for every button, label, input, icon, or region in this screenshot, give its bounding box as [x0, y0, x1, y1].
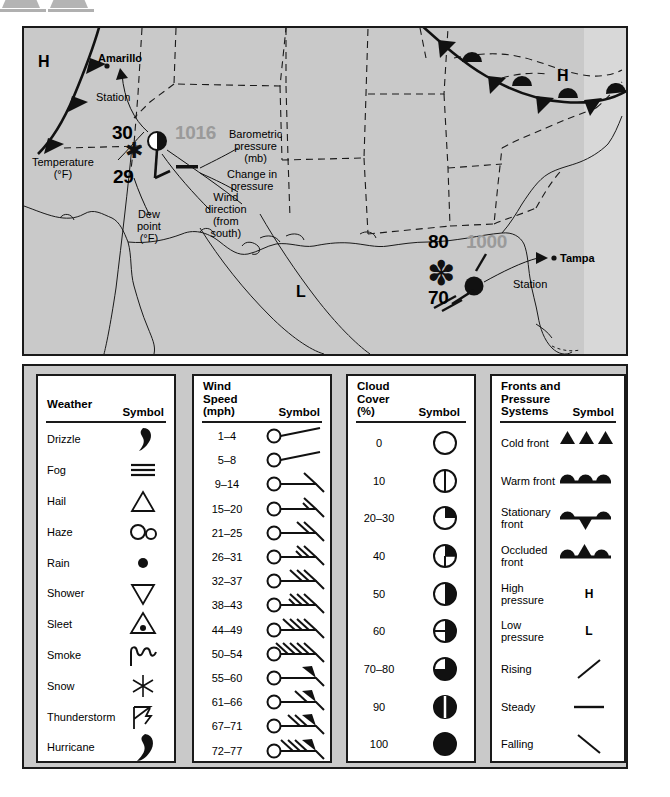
- legend-row-label: Fog: [38, 464, 66, 476]
- legend-row: Low pressureL: [492, 612, 624, 650]
- legend-row: Drizzle: [38, 424, 174, 455]
- wind-direction-label: Wind direction (from south): [205, 191, 247, 239]
- legend-row-label: Falling: [492, 738, 533, 750]
- occluded-front-icon: [554, 537, 624, 575]
- pressure-glyph: H: [585, 587, 594, 601]
- legend-row-label: 72–77: [194, 745, 258, 757]
- legend-row-label: Stationary front: [492, 506, 551, 530]
- haze-icon: [112, 516, 174, 547]
- legend-row: Haze: [38, 516, 174, 547]
- panel-title: Cloud Cover (%): [357, 380, 390, 418]
- high-pressure-icon: H: [554, 575, 624, 613]
- station-temperature-tampa: 80: [428, 236, 449, 248]
- warm-front-icon: [554, 462, 624, 500]
- legend-row-symbol: [268, 472, 330, 496]
- station-dewpoint-amarillo: 29: [113, 171, 134, 183]
- legend-row-symbol: [268, 642, 330, 666]
- station-pressure-tampa: 1000: [466, 236, 507, 248]
- legend-row-label: Sleet: [38, 618, 72, 630]
- legend-row: 90: [348, 688, 474, 726]
- high-pressure-label-east: H: [557, 70, 569, 82]
- legend-row-label: 1–4: [194, 430, 258, 442]
- low-pressure-label: L: [296, 286, 306, 298]
- legend-row: Rain: [38, 547, 174, 578]
- legend-row-symbol: [416, 537, 474, 575]
- legend-row: 38–43: [194, 593, 330, 617]
- legend-row-label: 50: [348, 588, 408, 600]
- panel-symbol-header: Symbol: [122, 406, 164, 418]
- sleet-icon: [112, 609, 174, 640]
- legend-row: Warm front: [492, 462, 624, 500]
- legend-row-symbol: [268, 545, 330, 569]
- legend-row-label: 61–66: [194, 696, 258, 708]
- legend-row-label: 10: [348, 475, 408, 487]
- fronts-rows: Cold frontWarm frontStationary frontOccl…: [492, 424, 624, 759]
- legend-row: 5–8: [194, 448, 330, 472]
- city-label-amarillo: Amarillo: [98, 52, 142, 64]
- legend-row-label: 67–71: [194, 720, 258, 732]
- legend-row-label: 90: [348, 701, 408, 713]
- legend-row-symbol: [416, 424, 474, 462]
- legend-row: 100: [348, 726, 474, 764]
- legend-row-label: 44–49: [194, 624, 258, 636]
- legend-row-label: 50–54: [194, 648, 258, 660]
- legend-row-label: Haze: [38, 526, 73, 538]
- legend-row-label: 38–43: [194, 599, 258, 611]
- legend-row-symbol: [268, 593, 330, 617]
- legend-row-symbol: [268, 521, 330, 545]
- legend-panel-cloud-cover: Cloud Cover (%) Symbol 01020–3040506070–…: [346, 374, 476, 763]
- shower-icon: [112, 578, 174, 609]
- stationary-front-icon: [554, 499, 624, 537]
- legend-row-symbol: [268, 666, 330, 690]
- legend-row: 70–80: [348, 650, 474, 688]
- drizzle-icon: [112, 424, 174, 455]
- legend-row: 67–71: [194, 714, 330, 738]
- steady-icon: [554, 688, 624, 726]
- weather-rows: DrizzleFogHailHazeRainShowerSleetSmokeSn…: [38, 424, 174, 759]
- legend-row: 40: [348, 537, 474, 575]
- legend-row-label: 9–14: [194, 478, 258, 490]
- high-pressure-label-west: H: [38, 56, 50, 68]
- legend-panel-weather: Weather Symbol DrizzleFogHailHazeRainSho…: [36, 374, 176, 763]
- legend-row-label: Hurricane: [38, 741, 95, 753]
- panel-symbol-header: Symbol: [572, 406, 614, 418]
- legend-row: 10: [348, 462, 474, 500]
- low-pressure-icon: L: [554, 612, 624, 650]
- legend-row-label: Drizzle: [38, 433, 81, 445]
- change-in-pressure-label: Change in pressure: [227, 168, 277, 192]
- cold-front-icon: [554, 424, 624, 462]
- legend-row-label: Shower: [38, 587, 84, 599]
- station-pressure-amarillo: 1016: [175, 127, 216, 139]
- header-rule: [46, 421, 166, 423]
- legend-row-label: Occluded front: [492, 544, 547, 568]
- legend-row: Falling: [492, 726, 624, 764]
- legend-row-label: Rain: [38, 557, 70, 569]
- legend-row-label: 21–25: [194, 527, 258, 539]
- panel-header: Cloud Cover (%) Symbol: [348, 376, 474, 422]
- legend-row: Rising: [492, 650, 624, 688]
- legend-row-symbol: [268, 497, 330, 521]
- rain-icon: [112, 547, 174, 578]
- legend-row: Snow: [38, 670, 174, 701]
- pressure-glyph: L: [585, 624, 592, 638]
- legend-row: High pressureH: [492, 575, 624, 613]
- station-dewpoint-tampa: 70: [428, 292, 449, 304]
- rising-icon: [554, 650, 624, 688]
- legend-row-symbol: [416, 688, 474, 726]
- legend-row: Steady: [492, 688, 624, 726]
- legend-row: 0: [348, 424, 474, 462]
- legend-row-label: High pressure: [492, 582, 544, 606]
- legend-panel-wind-speed: Wind Speed (mph) Symbol 1–45–89–1415–202…: [192, 374, 332, 763]
- legend-panel-fronts: Fronts and Pressure Systems Symbol Cold …: [490, 374, 626, 763]
- legend-row: 20–30: [348, 499, 474, 537]
- legend-row-symbol: [416, 462, 474, 500]
- legend-row-label: 40: [348, 550, 408, 562]
- legend-row: Sleet: [38, 609, 174, 640]
- panel-title: Fronts and Pressure Systems: [501, 380, 560, 418]
- legend-row: 61–66: [194, 690, 330, 714]
- snow-icon: [112, 670, 174, 701]
- legend-row: 1–4: [194, 424, 330, 448]
- legend-row: Hurricane: [38, 732, 174, 763]
- legend-row: 44–49: [194, 618, 330, 642]
- legend-row: Shower: [38, 578, 174, 609]
